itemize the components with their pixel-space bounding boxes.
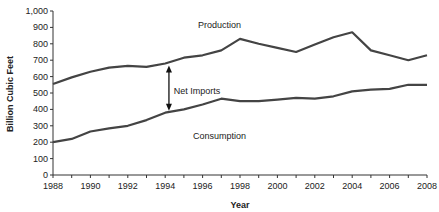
y-tick-label: 1,000 — [25, 6, 48, 16]
x-tick-label: 1996 — [193, 181, 213, 191]
annotations: ProductionNet ImportsConsumption — [166, 20, 246, 142]
x-tick-label: 2008 — [417, 181, 437, 191]
series-lines — [53, 32, 427, 142]
y-tick-label: 800 — [33, 39, 48, 49]
line-chart: 01002003004005006007008009001,000 198819… — [0, 0, 439, 212]
y-axis: 01002003004005006007008009001,000 — [25, 6, 53, 180]
x-axis-label: Year — [230, 200, 250, 210]
y-tick-label: 500 — [33, 88, 48, 98]
y-tick-label: 900 — [33, 22, 48, 32]
x-tick-label: 1988 — [43, 181, 63, 191]
x-tick-label: 2000 — [267, 181, 287, 191]
x-tick-label: 2002 — [305, 181, 325, 191]
x-tick-label: 2006 — [380, 181, 400, 191]
y-tick-label: 100 — [33, 154, 48, 164]
y-tick-label: 600 — [33, 72, 48, 82]
series-line-production — [53, 32, 427, 84]
annotation-consumption: Consumption — [193, 131, 246, 141]
x-tick-label: 1998 — [230, 181, 250, 191]
x-tick-label: 1994 — [155, 181, 175, 191]
annotation-net-imports: Net Imports — [174, 86, 221, 96]
x-tick-label: 1992 — [118, 181, 138, 191]
double-arrow-icon — [166, 65, 172, 110]
y-axis-label: Billion Cubic Feet — [5, 56, 15, 132]
y-tick-label: 700 — [33, 55, 48, 65]
x-tick-label: 1990 — [80, 181, 100, 191]
y-tick-label: 400 — [33, 104, 48, 114]
annotation-production: Production — [198, 20, 241, 30]
x-axis: 1988199019921994199619982000200220042006… — [43, 175, 437, 191]
y-tick-label: 300 — [33, 121, 48, 131]
y-tick-label: 200 — [33, 137, 48, 147]
chart: 01002003004005006007008009001,000 198819… — [0, 0, 439, 212]
y-tick-label: 0 — [43, 170, 48, 180]
x-tick-label: 2004 — [342, 181, 362, 191]
